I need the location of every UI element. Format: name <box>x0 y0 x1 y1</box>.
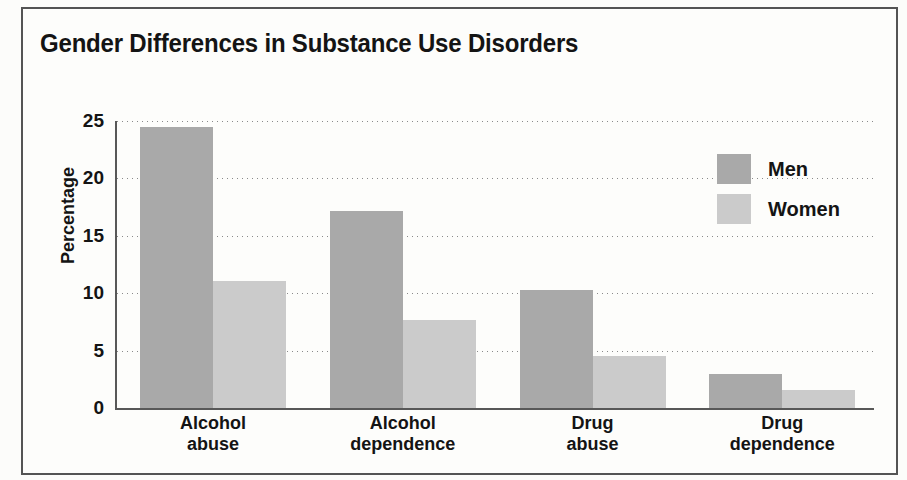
bar-men-2 <box>330 211 403 408</box>
legend-label-men: Men <box>768 158 808 181</box>
gridline <box>115 121 874 122</box>
legend-swatch-men <box>717 154 751 184</box>
legend-swatch-women <box>717 194 751 224</box>
bar-men-3 <box>520 290 593 408</box>
x-tick-label-2: Alcohol dependence <box>293 413 513 455</box>
y-tick-label: 15 <box>83 225 104 247</box>
y-axis-line <box>115 121 117 408</box>
bar-men-1 <box>140 127 213 408</box>
chart-legend: MenWomen <box>717 149 840 229</box>
legend-item-women: Women <box>717 189 840 229</box>
x-axis-line <box>115 408 874 410</box>
figure-frame: Gender Differences in Substance Use Diso… <box>21 7 898 475</box>
y-tick-label: 25 <box>83 110 104 132</box>
bar-women-4 <box>782 390 855 408</box>
x-tick-label-3: Drug abuse <box>483 413 703 455</box>
bar-women-2 <box>403 320 476 408</box>
y-tick-label: 20 <box>83 167 104 189</box>
y-axis-label: Percentage <box>58 167 79 264</box>
bar-men-4 <box>709 374 782 408</box>
bar-women-1 <box>213 281 286 408</box>
x-tick-label-4: Drug dependence <box>672 413 892 455</box>
gridline <box>115 236 874 237</box>
y-tick-label: 5 <box>93 340 104 362</box>
x-tick-label-1: Alcohol abuse <box>103 413 323 455</box>
page-title: Gender Differences in Substance Use Diso… <box>40 29 578 58</box>
y-tick-label: 10 <box>83 282 104 304</box>
legend-label-women: Women <box>768 198 840 221</box>
legend-item-men: Men <box>717 149 840 189</box>
scanned-page-background: personal problemsmay varyAlthough forand… <box>0 0 907 480</box>
bar-women-3 <box>593 356 666 408</box>
